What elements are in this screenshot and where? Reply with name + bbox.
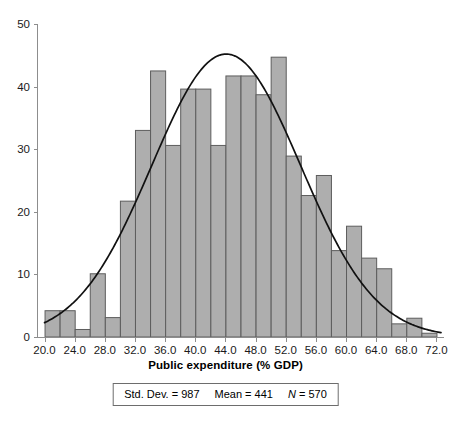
histogram-bar: [181, 89, 196, 337]
n-value: = 570: [299, 388, 327, 400]
histogram-bar: [75, 329, 90, 337]
x-tick-label: 52.0: [275, 344, 297, 356]
histogram-bar: [271, 57, 286, 337]
x-tick-label: 40.0: [184, 344, 206, 356]
histogram-bar: [422, 333, 437, 337]
n-label: N = 570: [288, 388, 327, 400]
histogram-bar: [301, 196, 316, 337]
x-axis-title: Public expenditure (% GDP): [0, 359, 451, 371]
histogram-bar: [90, 274, 105, 337]
histogram-chart: 01020304050 20.024.028.032.036.040.044.0…: [0, 0, 451, 426]
histogram-bar: [105, 318, 120, 337]
histogram-bar: [286, 156, 301, 337]
histogram-bar: [151, 71, 166, 337]
x-tick-label: 44.0: [214, 344, 236, 356]
x-tick-label: 28.0: [94, 344, 116, 356]
histogram-bar: [331, 251, 346, 337]
x-tick-label: 72.0: [425, 344, 447, 356]
y-axis-ticks: 01020304050: [17, 18, 37, 343]
x-tick-label: 64.0: [365, 344, 387, 356]
histogram-bar: [392, 324, 407, 337]
plot-area: 01020304050 20.024.028.032.036.040.044.0…: [17, 18, 447, 356]
y-tick-label: 10: [17, 268, 30, 280]
mean-label: Mean = 441: [215, 388, 273, 400]
histogram-bar: [211, 145, 226, 337]
histogram-bar: [166, 145, 181, 337]
histogram-bar: [256, 95, 271, 337]
std-dev-label: Std. Dev. = 987: [124, 388, 199, 400]
statistics-legend-box: Std. Dev. = 987 Mean = 441 N = 570: [112, 383, 339, 406]
histogram-bar: [60, 311, 75, 337]
histogram-bar: [196, 89, 211, 337]
x-tick-label: 48.0: [244, 344, 266, 356]
x-tick-label: 24.0: [63, 344, 85, 356]
histogram-bar: [226, 76, 241, 337]
x-tick-label: 20.0: [33, 344, 55, 356]
x-tick-label: 36.0: [154, 344, 176, 356]
histogram-bar: [120, 201, 135, 337]
n-symbol: N: [288, 388, 296, 400]
y-tick-label: 30: [17, 143, 30, 155]
x-tick-label: 60.0: [335, 344, 357, 356]
histogram-bar: [135, 130, 150, 337]
histogram-bar: [316, 175, 331, 337]
y-tick-label: 40: [17, 81, 30, 93]
x-tick-label: 56.0: [305, 344, 327, 356]
histogram-bars: [45, 57, 437, 337]
y-tick-label: 50: [17, 18, 30, 30]
histogram-bar: [241, 76, 256, 337]
y-tick-label: 0: [24, 331, 30, 343]
y-tick-label: 20: [17, 206, 30, 218]
x-axis-ticks: 20.024.028.032.036.040.044.048.052.056.0…: [33, 338, 447, 357]
x-tick-label: 68.0: [395, 344, 417, 356]
x-tick-label: 32.0: [124, 344, 146, 356]
histogram-bar: [347, 226, 362, 337]
